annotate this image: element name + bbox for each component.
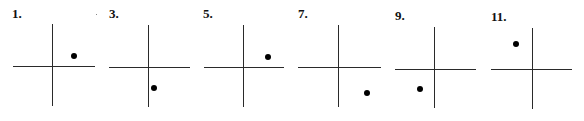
exercise-label: 9.: [395, 9, 405, 22]
y-axis: [148, 25, 149, 107]
exercise-label: 1.: [12, 7, 22, 20]
x-axis: [298, 67, 381, 68]
coordinate-plane-7: 7.: [291, 0, 388, 121]
plotted-point: [417, 86, 423, 92]
coordinate-plane-1: 1.: [0, 0, 97, 121]
plotted-point: [364, 90, 370, 96]
x-axis: [109, 67, 190, 68]
y-axis: [434, 27, 435, 108]
exercise-label: 3.: [109, 7, 119, 20]
coordinate-plane-11: 11.: [484, 0, 584, 121]
x-axis: [204, 67, 284, 68]
plotted-point: [513, 41, 519, 47]
coordinate-plane-3: 3.: [97, 0, 194, 121]
plotted-point: [71, 53, 77, 59]
coordinate-plane-5: 5.: [194, 0, 291, 121]
y-axis: [338, 25, 339, 107]
plotted-point: [151, 85, 157, 91]
x-axis: [395, 69, 476, 70]
x-axis: [491, 69, 572, 70]
x-axis: [13, 66, 95, 67]
exercise-label: 11.: [491, 10, 507, 23]
exercise-label: 5.: [203, 7, 213, 20]
exercise-label: 7.: [298, 7, 308, 20]
plotted-point: [265, 54, 271, 60]
y-axis: [243, 25, 244, 107]
y-axis: [52, 24, 53, 106]
coordinate-plane-9: 9.: [388, 0, 484, 121]
